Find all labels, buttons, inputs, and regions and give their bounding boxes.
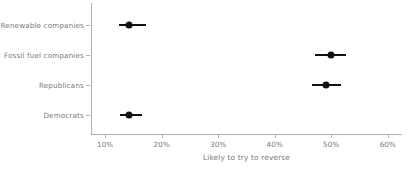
- plot-area: [91, 3, 402, 134]
- x-axis-tick-label: 20%: [153, 140, 169, 149]
- x-axis-tick-mark: [162, 134, 163, 138]
- y-axis-tick-label: Fossil fuel companies: [4, 51, 84, 60]
- x-axis-tick-label: 40%: [267, 140, 283, 149]
- x-axis-tick-mark: [105, 134, 106, 138]
- x-axis-tick-label: 10%: [97, 140, 113, 149]
- error-bar: [119, 24, 146, 26]
- y-axis-tick-mark: [86, 115, 90, 116]
- x-axis-tick-mark: [388, 134, 389, 138]
- x-axis-tick-label: 50%: [323, 140, 339, 149]
- data-point: [125, 112, 132, 119]
- y-axis-tick-mark: [86, 25, 90, 26]
- y-axis-tick-mark: [86, 85, 90, 86]
- y-axis-tick-label: Republicans: [39, 81, 84, 90]
- x-axis-tick-mark: [218, 134, 219, 138]
- data-point: [327, 52, 334, 59]
- data-point: [125, 22, 132, 29]
- x-axis-tick-label: 60%: [380, 140, 396, 149]
- x-axis-tick-mark: [331, 134, 332, 138]
- y-axis-tick-mark: [86, 55, 90, 56]
- x-axis-tick-mark: [275, 134, 276, 138]
- y-axis-tick-labels: Renewable companiesFossil fuel companies…: [0, 0, 84, 171]
- y-axis-tick-label: Democrats: [43, 111, 84, 120]
- x-axis-spine: [91, 134, 402, 135]
- y-axis-tick-label: Renewable companies: [0, 21, 84, 30]
- x-axis-tick-label: 30%: [210, 140, 226, 149]
- x-axis-title: Likely to try to reverse: [91, 153, 402, 162]
- data-point: [323, 82, 330, 89]
- dot-plot-chart: Renewable companiesFossil fuel companies…: [0, 0, 419, 171]
